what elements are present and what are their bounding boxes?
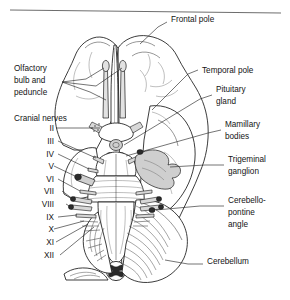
right-olfactory-tract xyxy=(120,70,126,118)
label-mamillary-line2: bodies xyxy=(225,132,249,141)
label-pituitary-line1: Pituitary xyxy=(216,85,246,94)
label-trigeminal-line2: ganglion xyxy=(228,167,259,176)
label-trigeminal-line1: Trigeminal xyxy=(228,155,266,164)
label-mamillary-line1: Mamillary xyxy=(225,120,261,129)
nerve-VII-tip-right xyxy=(156,197,161,202)
label-nerve-II: II xyxy=(49,124,54,133)
label-cerebellum: Cerebellum xyxy=(207,257,249,266)
label-nerve-IV: IV xyxy=(46,150,54,159)
brain-outline-group xyxy=(55,36,208,283)
label-cpa-line1: Cerebello- xyxy=(228,196,266,205)
label-olfactory-line3: peduncle xyxy=(14,88,48,97)
nerve-IX-root xyxy=(76,214,96,218)
label-frontal-pole: Frontal pole xyxy=(171,15,215,24)
nerve-V-ganglion-left xyxy=(75,174,82,180)
top-divider-rule xyxy=(10,10,281,13)
label-cpa-line3: angle xyxy=(228,220,248,229)
nerve-VIII-tip-right xyxy=(158,205,163,210)
label-nerve-III: III xyxy=(47,137,54,146)
label-cranial-nerves: Cranial nerves xyxy=(14,114,67,123)
left-olfactory-bulb xyxy=(102,60,109,71)
label-nerve-VII: VII xyxy=(44,187,54,196)
label-nerve-V: V xyxy=(49,162,55,171)
label-pituitary-line2: gland xyxy=(216,97,236,106)
pituitary-gland-shape xyxy=(110,140,123,151)
label-cpa-line2: pontine xyxy=(228,208,255,217)
label-nerve-IX: IX xyxy=(46,213,54,222)
cerebellopontine-node xyxy=(149,207,155,212)
brain-illustration: Olfactory bulb and peduncle Cranial nerv… xyxy=(0,0,290,300)
left-olfactory-tract xyxy=(103,70,109,118)
label-olfactory-line2: bulb and xyxy=(14,76,46,85)
nerve-IX-root-right xyxy=(136,214,154,218)
right-olfactory-bulb xyxy=(119,60,126,71)
label-nerve-XI: XI xyxy=(46,238,54,247)
leader-IX xyxy=(58,215,77,217)
nerve-VIII-root xyxy=(71,205,92,211)
label-olfactory-line1: Olfactory xyxy=(14,64,48,73)
label-nerve-XII: XII xyxy=(44,251,54,260)
leader-X xyxy=(54,221,84,229)
label-nerve-X: X xyxy=(49,225,55,234)
brain-anatomy-figure: Olfactory bulb and peduncle Cranial nerv… xyxy=(0,0,290,300)
label-nerve-VIII: VIII xyxy=(42,200,54,209)
label-temporal-pole: Temporal pole xyxy=(202,66,254,75)
label-nerve-VI: VI xyxy=(46,175,54,184)
